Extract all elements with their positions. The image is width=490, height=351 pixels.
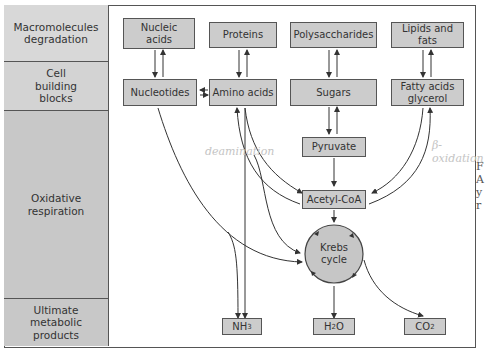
node-amino-acids: Amino acids <box>209 79 277 106</box>
product-subscript: 2 <box>430 321 434 333</box>
node-nucleotides: Nucleotides <box>123 79 197 106</box>
product-formula: NH <box>232 321 247 333</box>
node-label: Sugars <box>316 87 350 99</box>
krebs-cycle-label: Krebs cycle <box>305 242 363 266</box>
node-acetyl-coa: Acetyl-CoA <box>302 190 366 209</box>
arrows-layer <box>0 0 490 351</box>
node-label: Nucleotides <box>131 87 190 99</box>
node-label: Polysaccharides <box>294 29 374 41</box>
node-label: Pyruvate <box>312 141 357 153</box>
node-proteins: Proteins <box>209 22 277 48</box>
node-label: Proteins <box>223 29 263 41</box>
node-lipids-and-fats: Lipids and fats <box>391 22 464 48</box>
node-h2o: H2O <box>313 318 355 335</box>
product-formula: O <box>336 321 344 333</box>
node-label: Lipids and fats <box>392 23 463 47</box>
annotation-deamination: deamination <box>205 145 274 158</box>
node-co2: CO2 <box>404 318 446 335</box>
node-nucleic-acids: Nucleic acids <box>123 18 195 49</box>
product-subscript: 3 <box>247 321 251 333</box>
side-text-line: A <box>476 173 484 186</box>
krebs-line-1: Krebs <box>305 242 363 254</box>
node-pyruvate: Pyruvate <box>302 137 366 157</box>
node-fatty-acids-glycerol: Fatty acids glycerol <box>391 79 464 106</box>
side-text-line: y <box>476 186 484 199</box>
side-text: F A y r <box>476 160 484 212</box>
side-text-line: F <box>476 160 484 173</box>
side-text-line: r <box>476 199 484 212</box>
node-nh3: NH3 <box>222 318 262 335</box>
product-formula: H <box>324 321 332 333</box>
node-polysaccharides: Polysaccharides <box>290 22 377 48</box>
node-sugars: Sugars <box>290 79 377 106</box>
product-formula: CO <box>415 321 430 333</box>
node-label: Nucleic acids <box>135 22 183 46</box>
node-label: Acetyl-CoA <box>307 194 361 206</box>
node-label: Fatty acids glycerol <box>398 81 458 105</box>
krebs-line-2: cycle <box>305 254 363 266</box>
node-label: Amino acids <box>213 87 274 99</box>
